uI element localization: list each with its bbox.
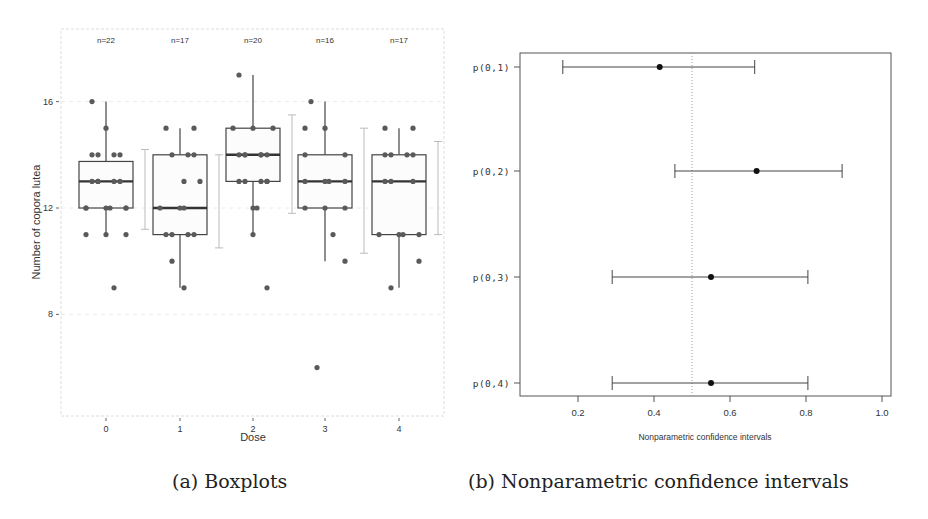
n-annotation: n=22 — [97, 36, 116, 45]
x-tick-label: 0 — [103, 424, 108, 434]
x-tick-label: 1.0 — [875, 407, 888, 418]
data-point — [342, 205, 347, 210]
data-point — [242, 152, 247, 157]
data-point — [314, 365, 319, 370]
data-point — [342, 152, 347, 157]
data-point — [181, 285, 186, 290]
data-point — [302, 205, 307, 210]
x-tick-label: 0.8 — [799, 407, 812, 418]
data-point — [163, 126, 168, 131]
data-point — [388, 152, 393, 157]
x-axis-label: Nonparametric confidence intervals — [638, 432, 771, 442]
data-point — [169, 259, 174, 264]
x-tick-label: 0.4 — [647, 407, 660, 418]
caption-a: (a) Boxplots — [172, 470, 287, 492]
n-annotation: n=17 — [390, 36, 409, 45]
box — [79, 161, 133, 208]
data-point — [250, 232, 255, 237]
data-point — [185, 232, 190, 237]
data-point — [191, 232, 196, 237]
data-point — [117, 152, 122, 157]
data-point — [342, 179, 347, 184]
row-label: p(0,2) — [473, 166, 510, 177]
data-point — [322, 179, 327, 184]
data-point — [242, 179, 247, 184]
data-point — [83, 232, 88, 237]
caption-b: (b) Nonparametric confidence intervals — [468, 470, 849, 492]
data-point — [264, 179, 269, 184]
ci-row-4: p(0,4) — [473, 376, 808, 390]
x-tick-label: 0.2 — [571, 407, 584, 418]
figure: 81216Number of copora lutea01234Dosen=22… — [0, 0, 928, 519]
data-point — [169, 152, 174, 157]
data-point — [89, 152, 94, 157]
data-point — [410, 179, 415, 184]
data-point — [117, 179, 122, 184]
data-point — [302, 152, 307, 157]
x-tick-label: 4 — [396, 424, 401, 434]
n-annotation: n=16 — [316, 36, 335, 45]
data-point — [103, 126, 108, 131]
plot-frame — [520, 53, 891, 396]
data-point — [163, 232, 168, 237]
data-point — [191, 152, 196, 157]
data-point — [302, 126, 307, 131]
data-point — [95, 152, 100, 157]
data-point — [111, 152, 116, 157]
data-point — [270, 126, 275, 131]
data-point — [89, 179, 94, 184]
data-point — [302, 179, 307, 184]
data-point — [103, 232, 108, 237]
row-label: p(0,3) — [473, 272, 510, 283]
data-point — [236, 179, 241, 184]
box-dose-1 — [153, 128, 223, 288]
confidence-interval-panel: 0.20.40.60.81.0Nonparametric confidence … — [473, 53, 891, 442]
boxplot-panel: 81216Number of copora lutea01234Dosen=22… — [30, 29, 444, 443]
row-label: p(0,4) — [473, 378, 510, 389]
y-tick-label: 8 — [48, 309, 53, 319]
data-point — [157, 205, 162, 210]
data-point — [236, 72, 241, 77]
data-point — [330, 232, 335, 237]
data-point — [308, 99, 313, 104]
data-point — [376, 232, 381, 237]
data-point — [111, 285, 116, 290]
data-point — [342, 259, 347, 264]
data-point — [388, 179, 393, 184]
data-point — [382, 179, 387, 184]
estimate-point — [754, 168, 760, 174]
y-tick-label: 12 — [43, 203, 53, 213]
x-tick-label: 3 — [322, 424, 327, 434]
data-point — [382, 126, 387, 131]
data-point — [404, 152, 409, 157]
x-tick-label: 0.6 — [723, 407, 736, 418]
data-point — [410, 152, 415, 157]
x-tick-label: 1 — [177, 424, 182, 434]
data-point — [264, 285, 269, 290]
data-point — [410, 126, 415, 131]
data-point — [197, 179, 202, 184]
box — [372, 155, 426, 235]
estimate-point — [657, 64, 663, 70]
box — [153, 155, 207, 235]
data-point — [236, 152, 241, 157]
data-point — [264, 152, 269, 157]
data-point — [258, 152, 263, 157]
data-point — [258, 179, 263, 184]
y-axis-label: Number of copora lutea — [30, 164, 42, 280]
data-point — [250, 205, 255, 210]
n-annotation: n=17 — [171, 36, 190, 45]
data-point — [181, 179, 186, 184]
ci-row-1: p(0,1) — [473, 60, 755, 74]
data-point — [191, 126, 196, 131]
data-point — [103, 205, 108, 210]
n-annotation: n=20 — [244, 36, 263, 45]
box-dose-3 — [298, 102, 368, 262]
data-point — [416, 259, 421, 264]
x-axis-label: Dose — [240, 431, 266, 443]
data-point — [89, 99, 94, 104]
data-point — [185, 152, 190, 157]
data-point — [169, 232, 174, 237]
data-point — [123, 205, 128, 210]
data-point — [250, 126, 255, 131]
